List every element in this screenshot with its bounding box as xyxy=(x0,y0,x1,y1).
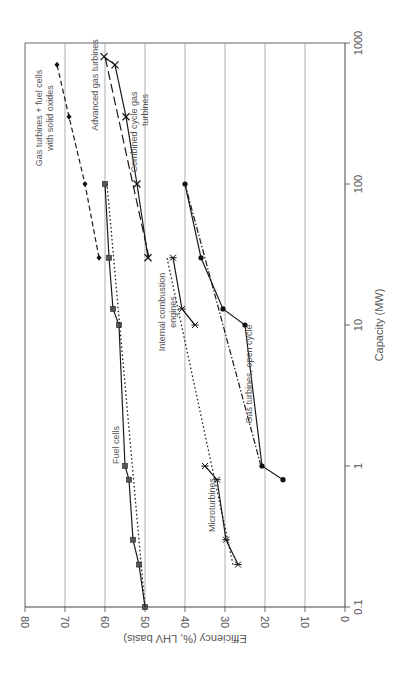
series-line xyxy=(105,57,149,258)
annotation-advanced-gas-turbines: Advanced gas turbines xyxy=(90,39,100,131)
efficiency-tick-label: 0 xyxy=(339,616,351,622)
annotation-gt-fuel-cells-line2: with solid oxides xyxy=(45,85,55,152)
efficiency-tick-label: 30 xyxy=(219,616,231,628)
asterisk-marker-icon xyxy=(201,463,208,469)
asterisk-marker-icon xyxy=(191,322,198,328)
series-advanced-gas-turbines xyxy=(105,57,149,258)
series-line xyxy=(185,184,283,480)
efficiency-tick-label: 10 xyxy=(299,616,311,628)
efficiency-axis-title: Efficiency (%, LHV basis) xyxy=(123,633,246,645)
efficiency-vs-capacity-chart: 01020304050607080 0.11101001000 Efficien… xyxy=(0,0,393,684)
series-combined-cycle-gas-turbines xyxy=(101,53,152,261)
capacity-tick-label: 1 xyxy=(352,463,364,469)
annotation-fuel-cells: Fuel cells xyxy=(111,425,121,464)
diamond-marker-icon xyxy=(55,62,60,68)
diamond-marker-icon xyxy=(97,255,102,261)
efficiency-tick-label: 40 xyxy=(179,616,191,628)
square-marker-icon xyxy=(127,477,132,482)
annotation-ice-line1: Internal combustion xyxy=(157,273,167,352)
annotation-microturbines: Microturbines xyxy=(207,477,217,532)
capacity-axis-title: Capacity (MW) xyxy=(373,289,385,362)
square-marker-icon xyxy=(107,255,112,260)
series-line xyxy=(107,184,145,607)
annotation-combined-cycle-line1: Combined cycle gas xyxy=(129,91,139,173)
axis-ticks xyxy=(25,43,350,612)
square-marker-icon xyxy=(123,464,128,469)
efficiency-tick-label: 70 xyxy=(59,616,71,628)
capacity-tick-label: 10 xyxy=(352,319,364,331)
efficiency-tick-label: 60 xyxy=(99,616,111,628)
series-fuel-cells-trend xyxy=(107,184,145,607)
efficiency-tick-labels: 01020304050607080 xyxy=(19,616,351,628)
efficiency-tick-label: 50 xyxy=(139,616,151,628)
efficiency-tick-label: 20 xyxy=(259,616,271,628)
dot-marker-icon xyxy=(220,306,225,311)
efficiency-tick-label: 80 xyxy=(19,616,31,628)
capacity-tick-label: 1000 xyxy=(352,31,364,55)
diamond-marker-icon xyxy=(83,181,88,187)
annotation-gt-open-cycle: Gas turbines, open cycle xyxy=(244,324,254,423)
square-marker-icon xyxy=(131,537,136,542)
dot-marker-icon xyxy=(280,477,285,482)
series-line xyxy=(105,184,145,607)
dot-marker-icon xyxy=(198,255,203,260)
square-marker-icon xyxy=(111,306,116,311)
annotation-combined-cycle-line2: turbines xyxy=(140,93,150,126)
annotation-ice-line2: engines xyxy=(168,296,178,328)
diamond-marker-icon xyxy=(67,114,72,120)
annotation-gt-fuel-cells-line1: Gas turbines + fuel cells xyxy=(34,69,44,166)
capacity-tick-label: 0.1 xyxy=(352,599,364,614)
x-marker-icon xyxy=(101,53,108,60)
asterisk-marker-icon xyxy=(234,562,241,568)
gridlines xyxy=(65,43,305,607)
plot-area xyxy=(25,43,350,612)
capacity-tick-labels: 0.11101001000 xyxy=(352,31,364,615)
capacity-tick-label: 100 xyxy=(352,175,364,193)
series-gas-turbines-open-cycle xyxy=(182,181,285,482)
square-marker-icon xyxy=(103,182,108,187)
series-fuel-cells xyxy=(103,182,148,610)
